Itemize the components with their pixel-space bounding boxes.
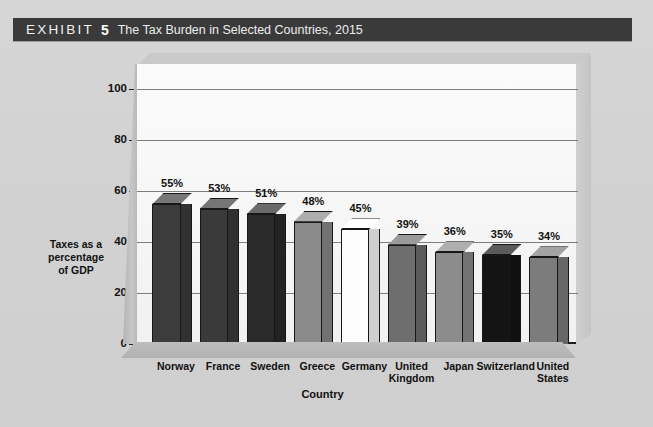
x-axis-category-line: States: [518, 372, 589, 384]
bar-top-face: [294, 211, 333, 222]
bar[interactable]: [435, 252, 463, 344]
chart-panel: 020406080100 Taxes as apercentageof GDP …: [13, 48, 632, 403]
bar-side-face: [181, 204, 192, 344]
y-axis-title-line: percentage: [31, 251, 121, 264]
x-axis-category-line: Kingdom: [376, 372, 447, 384]
bar-front-face: [388, 245, 416, 344]
bar-side-face: [510, 255, 521, 344]
bar-series: 55%53%51%48%45%39%36%35%34%: [135, 64, 576, 344]
bar-front-face: [200, 209, 228, 344]
bar-top-face: [388, 234, 427, 245]
bar-top-face: [435, 241, 474, 252]
bar-top-face: [482, 244, 521, 255]
bar[interactable]: [294, 222, 322, 344]
bar-front-face: [435, 252, 463, 344]
bar-front-face: [482, 255, 510, 344]
bar-side-face: [275, 214, 286, 344]
bar-front-face: [247, 214, 275, 344]
bar-top-face: [341, 218, 380, 229]
y-axis-tick-label: 100: [108, 82, 127, 94]
bar[interactable]: [152, 204, 180, 344]
bar-top-face: [200, 198, 239, 209]
bar-top-face: [152, 193, 191, 204]
bar-front-face: [529, 257, 557, 344]
x-axis-category-label: UnitedStates: [518, 360, 589, 384]
plot-area: 55%53%51%48%45%39%36%35%34%: [135, 64, 590, 358]
y-axis-tick-labels: 020406080100: [73, 64, 127, 358]
bar-front-face: [341, 229, 369, 344]
bar[interactable]: [482, 255, 510, 344]
bar-value-label: 34%: [519, 230, 579, 242]
plot-right-wall: [576, 53, 591, 345]
y-axis-tick-label: 60: [114, 184, 127, 196]
y-axis-title-line: Taxes as a: [31, 238, 121, 251]
bar[interactable]: [247, 214, 275, 344]
exhibit-header-bar: EXHIBIT 5 The Tax Burden in Selected Cou…: [13, 18, 632, 41]
exhibit-number: 5: [101, 22, 109, 38]
page-background: EXHIBIT 5 The Tax Burden in Selected Cou…: [0, 0, 653, 427]
exhibit-title: The Tax Burden in Selected Countries, 20…: [118, 23, 363, 37]
y-axis-title-line: of GDP: [31, 264, 121, 277]
bar[interactable]: [529, 257, 557, 344]
bar-side-face: [322, 222, 333, 344]
x-axis-title: Country: [13, 388, 632, 400]
plot-floor: [121, 342, 579, 358]
bar-side-face: [369, 229, 380, 344]
bar-front-face: [294, 222, 322, 344]
bar-top-face: [529, 246, 568, 257]
y-axis-title: Taxes as apercentageof GDP: [31, 238, 121, 277]
exhibit-label: EXHIBIT: [26, 22, 94, 37]
bar[interactable]: [388, 245, 416, 344]
x-axis-category-line: United: [518, 360, 589, 372]
bar[interactable]: [200, 209, 228, 344]
y-axis-tick-label: 80: [114, 133, 127, 145]
bar-front-face: [152, 204, 180, 344]
bar-side-face: [463, 252, 474, 344]
bar-side-face: [416, 245, 427, 344]
bar-top-face: [247, 203, 286, 214]
bar[interactable]: [341, 229, 369, 344]
bar-side-face: [228, 209, 239, 344]
bar-side-face: [558, 257, 569, 344]
bar-value-label: 45%: [331, 202, 391, 214]
